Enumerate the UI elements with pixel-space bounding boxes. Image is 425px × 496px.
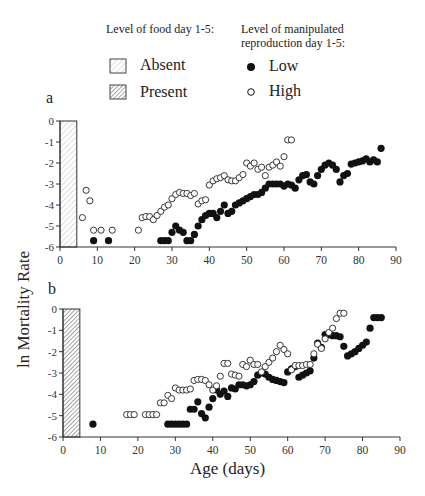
x-tick-label: 40 (207, 444, 219, 456)
high-data-point (307, 361, 313, 367)
low-data-point (314, 172, 321, 179)
low-data-point (187, 237, 194, 244)
high-data-point (277, 163, 283, 169)
y-tick-label: -3 (45, 178, 55, 190)
high-data-point (109, 227, 115, 233)
low-data-point (194, 398, 201, 405)
y-tick-label: -6 (48, 431, 58, 443)
repro-legend-title: Level of manipulated reproduction day 1-… (241, 22, 345, 50)
repro-legend-title-line2: reproduction day 1-5: (241, 36, 345, 50)
low-data-point (105, 237, 112, 244)
high-data-point (236, 373, 242, 379)
low-data-point (374, 158, 381, 165)
low-data-point (366, 325, 373, 332)
high-data-point (259, 164, 265, 170)
x-tick-label: 50 (244, 444, 256, 456)
high-data-point (270, 355, 276, 361)
low-data-point (333, 166, 340, 173)
panel-b-chart: 0-1-2-3-4-5-60102030405060708090 (0, 295, 425, 460)
low-data-point (310, 180, 317, 187)
high-data-point (91, 227, 97, 233)
high-data-point (288, 137, 294, 143)
x-tick-label: 60 (278, 254, 290, 266)
low-data-point (224, 393, 231, 400)
low-data-point (205, 404, 212, 411)
high-data-point (154, 412, 160, 418)
absent-swatch (110, 59, 126, 73)
high-data-point (255, 361, 261, 367)
low-data-point (280, 379, 287, 386)
y-tick-label: 0 (52, 303, 58, 315)
high-marker-icon (248, 89, 255, 96)
high-data-point (83, 187, 89, 193)
low-data-point (307, 367, 314, 374)
x-tick-label: 60 (282, 444, 294, 456)
x-tick-label: 20 (129, 254, 141, 266)
low-data-point (340, 343, 347, 350)
high-data-point (213, 383, 219, 389)
y-tick-label: -5 (45, 220, 55, 232)
high-data-point (311, 351, 317, 357)
low-data-point (191, 231, 198, 238)
x-tick-label: 20 (132, 444, 144, 456)
low-data-point (336, 333, 343, 340)
legend-present-label: Present (140, 83, 187, 101)
y-tick-label: -5 (48, 410, 58, 422)
high-data-point (217, 373, 223, 379)
x-tick-label: 10 (95, 444, 107, 456)
high-data-point (203, 197, 209, 203)
low-data-point (377, 145, 384, 152)
y-tick-label: -6 (45, 241, 55, 253)
low-data-point (180, 229, 187, 236)
food-legend-swatches (108, 57, 130, 103)
high-data-point (281, 154, 287, 160)
x-tick-label: 90 (394, 444, 406, 456)
high-data-point (98, 227, 104, 233)
x-tick-label: 70 (316, 254, 328, 266)
high-data-point (262, 173, 268, 179)
x-tick-label: 30 (170, 444, 182, 456)
food-legend-title: Level of food day 1-5: (106, 22, 214, 36)
high-data-point (79, 215, 85, 221)
low-data-point (213, 214, 220, 221)
panel-a-chart: 0-1-2-3-4-5-60102030405060708090 (0, 105, 425, 275)
y-tick-label: -4 (48, 388, 58, 400)
legend-low-label: Low (269, 57, 298, 75)
high-data-point (330, 325, 336, 331)
low-data-point (183, 421, 190, 428)
x-tick-label: 80 (357, 444, 369, 456)
high-data-point (322, 336, 328, 342)
food-bar (60, 121, 77, 247)
high-data-point (243, 364, 249, 370)
y-tick-label: -4 (45, 199, 55, 211)
high-data-point (341, 310, 347, 316)
low-data-point (344, 170, 351, 177)
high-data-point (187, 386, 193, 392)
x-tick-label: 90 (390, 254, 402, 266)
x-tick-label: 40 (204, 254, 216, 266)
high-data-point (273, 349, 279, 355)
x-tick-label: 30 (166, 254, 178, 266)
repro-legend-markers (244, 60, 258, 100)
y-tick-label: -1 (45, 136, 54, 148)
low-data-point (303, 171, 310, 178)
low-data-point (209, 395, 216, 402)
low-data-point (228, 208, 235, 215)
present-swatch (110, 85, 126, 99)
y-tick-label: -3 (48, 367, 58, 379)
high-data-point (240, 171, 246, 177)
high-data-point (168, 396, 174, 402)
x-tick-label: 50 (241, 254, 253, 266)
high-data-point (225, 360, 231, 366)
high-data-point (251, 160, 257, 166)
food-bar (63, 309, 80, 437)
y-tick-label: -1 (48, 324, 57, 336)
high-data-point (135, 227, 141, 233)
low-data-point (221, 201, 228, 208)
low-data-point (336, 178, 343, 185)
repro-legend-title-line1: Level of manipulated (241, 22, 345, 36)
high-data-point (87, 198, 93, 204)
low-data-point (168, 229, 175, 236)
high-data-point (161, 400, 167, 406)
high-data-point (285, 351, 291, 357)
